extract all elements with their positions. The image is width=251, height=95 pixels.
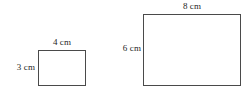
small-rectangle	[38, 50, 86, 86]
large-rectangle-height-label: 6 cm	[108, 43, 141, 54]
large-rectangle	[143, 14, 241, 86]
small-rectangle-width-label: 4 cm	[38, 37, 86, 48]
geometry-figure: 4 cm 3 cm 8 cm 6 cm	[0, 0, 251, 95]
small-rectangle-height-label: 3 cm	[2, 62, 35, 73]
large-rectangle-width-label: 8 cm	[143, 1, 241, 12]
